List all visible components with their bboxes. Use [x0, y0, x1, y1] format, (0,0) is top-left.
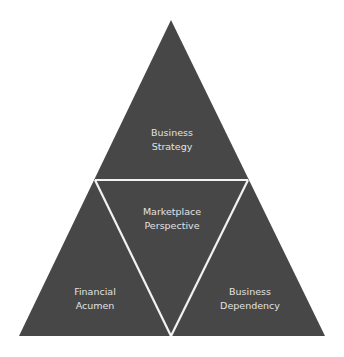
section-bottom-left-line2: Acumen [45, 299, 145, 313]
section-bottom-right-line1: Business [200, 285, 300, 299]
section-bottom-right-label: Business Dependency [200, 285, 300, 313]
pyramid-diagram: Business Strategy Marketplace Perspectiv… [0, 0, 344, 357]
section-top-label: Business Strategy [122, 126, 222, 154]
section-bottom-left-label: Financial Acumen [45, 285, 145, 313]
section-center-line2: Perspective [122, 219, 222, 233]
section-top-line1: Business [122, 126, 222, 140]
section-center-label: Marketplace Perspective [122, 205, 222, 233]
section-top-line2: Strategy [122, 140, 222, 154]
section-center-line1: Marketplace [122, 205, 222, 219]
section-bottom-right-line2: Dependency [200, 299, 300, 313]
section-bottom-left-line1: Financial [45, 285, 145, 299]
